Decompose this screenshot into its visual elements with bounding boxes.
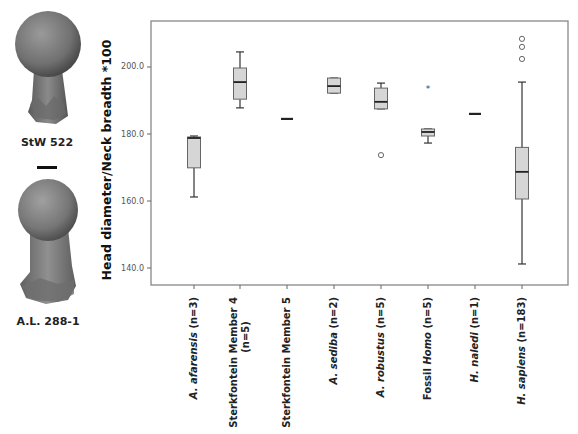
x-category-label: H. naledi (n=1) xyxy=(469,297,481,434)
iqr-box xyxy=(234,68,247,99)
x-category-label: Fossil Homo (n=5) xyxy=(422,297,434,434)
extreme-marker: * xyxy=(426,84,431,94)
outlier-marker xyxy=(378,153,383,158)
x-category-label: H. sapiens (n=183) xyxy=(516,297,528,434)
outlier-marker xyxy=(519,36,524,41)
x-category-label: A. robustus (n=5) xyxy=(375,297,387,434)
x-category-label: Sterkfontein Member 5 xyxy=(281,297,293,434)
plot-frame xyxy=(151,21,568,285)
iqr-box xyxy=(516,147,529,199)
iqr-box xyxy=(188,137,201,168)
iqr-box xyxy=(375,88,388,109)
outlier-marker xyxy=(519,44,524,49)
x-category-label: A. sediba (n=2) xyxy=(328,297,340,434)
x-category-label: Sterkfontein Member 4(n=5) xyxy=(228,297,252,434)
outlier-marker xyxy=(519,56,524,61)
x-category-label: A. afarensis (n=3) xyxy=(188,297,200,434)
